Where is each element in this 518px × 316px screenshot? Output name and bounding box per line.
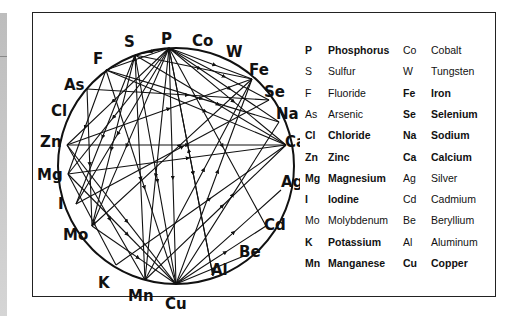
legend-element-name: Calcium: [431, 151, 472, 163]
legend-element-name: Zinc: [328, 151, 350, 163]
legend-symbol: I: [305, 193, 308, 205]
node-label-zn: Zn: [40, 133, 62, 151]
legend-element-name: Magnesium: [328, 172, 386, 184]
node-label-na: Na: [276, 105, 299, 123]
legend-element-name: Manganese: [328, 257, 385, 269]
node-label-al: Al: [211, 261, 228, 279]
legend-symbol: Ca: [403, 151, 416, 163]
legend-element-name: Cobalt: [431, 44, 461, 56]
legend-symbol: P: [305, 44, 312, 56]
node-label-ag: Ag: [281, 173, 300, 191]
legend-symbol: Mo: [305, 214, 320, 226]
node-label-mn: Mn: [128, 287, 154, 305]
node-label-i: I: [58, 195, 64, 213]
node-label-fe: Fe: [249, 61, 269, 79]
node-label-w: W: [226, 43, 243, 61]
legend-element-name: Fluoride: [328, 87, 366, 99]
node-label-se: Se: [264, 83, 285, 101]
legend-element-name: Copper: [431, 257, 468, 269]
interaction-line-zn-cu: [67, 145, 176, 284]
legend-element-name: Phosphorus: [328, 44, 389, 56]
legend-element-name: Chloride: [328, 129, 371, 141]
legend-symbol: F: [305, 87, 311, 99]
interaction-line-cu-ag: [176, 190, 281, 284]
legend-symbol: K: [305, 236, 313, 248]
legend-symbol: Cl: [305, 129, 316, 141]
node-label-cl: Cl: [51, 102, 67, 120]
legend-element-name: Tungsten: [431, 65, 474, 77]
legend-symbol: Cu: [403, 257, 417, 269]
legend-element-name: Potassium: [328, 236, 381, 248]
legend-symbol: Fe: [403, 87, 415, 99]
legend-symbol: Zn: [305, 151, 318, 163]
node-label-p: P: [161, 30, 172, 48]
node-label-k: K: [98, 274, 111, 292]
legend-element-name: Sulfur: [328, 65, 355, 77]
legend-symbol: Be: [403, 214, 416, 226]
legend-element-name: Molybdenum: [328, 214, 388, 226]
node-label-as: As: [64, 76, 85, 94]
legend-symbol: Cd: [403, 193, 416, 205]
legend-symbol: Al: [403, 236, 412, 248]
legend-element-name: Iron: [431, 87, 451, 99]
legend-element-name: Silver: [431, 172, 457, 184]
mineral-wheel-diagram: PCoWFeSeNaCaAgCdBeAlCuMnKMoIMgZnClAsFS: [0, 0, 300, 316]
interaction-line-mn-fe: [145, 79, 252, 280]
legend-element-name: Cadmium: [431, 193, 476, 205]
legend-symbol: Mn: [305, 257, 320, 269]
legend-element-name: Sodium: [431, 129, 470, 141]
node-label-cd: Cd: [264, 216, 286, 234]
element-labels: PCoWFeSeNaCaAgCdBeAlCuMnKMoIMgZnClAsFS: [37, 30, 300, 313]
legend-element-name: Arsenic: [328, 108, 363, 120]
node-label-co: Co: [192, 32, 213, 50]
legend-element-name: Iodine: [328, 193, 359, 205]
legend-symbol: As: [305, 108, 317, 120]
node-label-s: S: [124, 33, 135, 51]
node-label-f: F: [93, 50, 103, 68]
legend-element-name: Aluminum: [431, 236, 478, 248]
node-label-cu: Cu: [165, 295, 187, 313]
legend-symbol: Na: [403, 129, 416, 141]
legend-symbol: Ag: [403, 172, 416, 184]
legend-symbol: Se: [403, 108, 416, 120]
interaction-line-al-p: [169, 48, 213, 276]
legend-symbol: W: [403, 65, 413, 77]
node-label-ca: Ca: [285, 133, 300, 151]
legend-symbol: Co: [403, 44, 416, 56]
interaction-line-f-cu: [106, 70, 176, 284]
legend-symbol: Mg: [305, 172, 320, 184]
node-label-be: Be: [239, 243, 261, 261]
legend-element-name: Selenium: [431, 108, 478, 120]
node-label-mg: Mg: [37, 166, 63, 184]
interaction-line-mn-ca: [145, 145, 286, 280]
interaction-line-p-mg: [68, 48, 169, 174]
node-label-mo: Mo: [63, 226, 88, 244]
legend-element-name: Beryllium: [431, 214, 474, 226]
interaction-line-s-i: [76, 55, 135, 204]
legend-symbol: S: [305, 65, 312, 77]
